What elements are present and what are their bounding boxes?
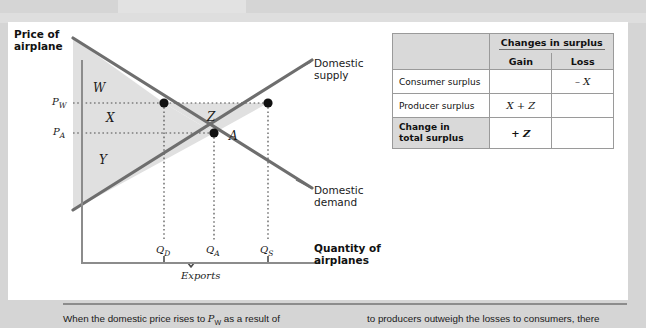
price-label-pa: PA bbox=[53, 126, 65, 140]
exports-bracket-label: Exports bbox=[181, 270, 220, 281]
caption-divider bbox=[63, 303, 627, 305]
row-label-total-line1: Change in bbox=[399, 122, 489, 133]
table-header-blank-cell bbox=[393, 34, 490, 70]
page-tab-decoration bbox=[118, 0, 246, 14]
quantity-label-qd-sub: D bbox=[164, 249, 170, 258]
table-row-producer-surplus: Producer surplus X + Z bbox=[393, 94, 614, 118]
table-header-changes-in-surplus: Changes in surplus bbox=[490, 34, 614, 54]
domestic-supply-label-line1: Domestic bbox=[314, 57, 363, 69]
caption-left-pre: When the domestic price rises to bbox=[63, 313, 208, 324]
table-row-consumer-surplus: Consumer surplus – X bbox=[393, 70, 614, 94]
y-axis-line bbox=[81, 60, 83, 264]
x-axis-line bbox=[81, 262, 320, 264]
quantity-label-qa-sub: A bbox=[214, 249, 219, 258]
caption-right-column: to producers outweigh the losses to cons… bbox=[367, 312, 642, 325]
table-header-loss: Loss bbox=[552, 53, 614, 70]
point-label-a: A bbox=[229, 129, 238, 143]
domestic-demand-label-line1: Domestic bbox=[314, 184, 363, 196]
caption-left-post: as a result of bbox=[221, 313, 280, 324]
caption-left-column: When the domestic price rises to PW as a… bbox=[63, 312, 338, 328]
price-label-pa-sub: A bbox=[60, 131, 65, 140]
region-label-x: X bbox=[106, 111, 115, 125]
consumer-surplus-gain bbox=[490, 70, 552, 94]
row-label-change-in-total-surplus: Change in total surplus bbox=[393, 118, 490, 149]
x-axis-title: Quantity of airplanes bbox=[314, 242, 406, 266]
domestic-supply-label-line2: supply bbox=[314, 69, 363, 81]
price-label-pw: PW bbox=[52, 96, 66, 110]
producer-surplus-gain: X + Z bbox=[490, 94, 552, 118]
total-surplus-loss bbox=[552, 118, 614, 149]
quantity-label-qs-base: Q bbox=[260, 244, 268, 255]
row-label-total-line2: total surplus bbox=[399, 133, 489, 144]
region-label-z: Z bbox=[207, 110, 215, 124]
quantity-label-qa: QA bbox=[206, 244, 220, 258]
producer-surplus-loss bbox=[552, 94, 614, 118]
point-a-equilibrium bbox=[209, 128, 218, 137]
point-qs-pw bbox=[263, 98, 272, 107]
changes-in-surplus-table: Changes in surplus Gain Loss Consumer su… bbox=[392, 33, 614, 149]
point-qd-pw bbox=[159, 98, 168, 107]
quantity-label-qs-sub: S bbox=[268, 249, 273, 258]
figure-root: Price of airplane Quantity of airplanes … bbox=[0, 0, 646, 328]
total-surplus-gain: + Z bbox=[490, 118, 552, 149]
quantity-label-qa-base: Q bbox=[206, 244, 214, 255]
table-header-row-1: Changes in surplus bbox=[393, 34, 614, 54]
quantity-label-qs: QS bbox=[260, 244, 273, 258]
quantity-label-qd: QD bbox=[156, 244, 170, 258]
quantity-label-qd-base: Q bbox=[156, 244, 164, 255]
domestic-supply-label: Domestic supply bbox=[314, 57, 363, 81]
table-row-total-surplus: Change in total surplus + Z bbox=[393, 118, 614, 149]
consumer-surplus-loss: – X bbox=[552, 70, 614, 94]
y-axis-title: Price of airplane bbox=[14, 28, 72, 52]
price-label-pa-base: P bbox=[53, 126, 60, 137]
price-label-pw-sub: W bbox=[59, 101, 67, 110]
shaded-regions bbox=[73, 38, 268, 210]
domestic-demand-label-line2: demand bbox=[314, 196, 363, 208]
row-label-consumer-surplus: Consumer surplus bbox=[393, 70, 490, 94]
domestic-demand-label: Domestic demand bbox=[314, 184, 363, 208]
row-label-producer-surplus: Producer surplus bbox=[393, 94, 490, 118]
price-label-pw-base: P bbox=[52, 96, 59, 107]
table-header-changes-in-surplus-text: Changes in surplus bbox=[499, 37, 605, 50]
region-label-w: W bbox=[93, 81, 105, 95]
supply-label-leader bbox=[296, 62, 311, 70]
table-header-gain: Gain bbox=[490, 53, 552, 70]
region-label-y: Y bbox=[99, 153, 107, 167]
